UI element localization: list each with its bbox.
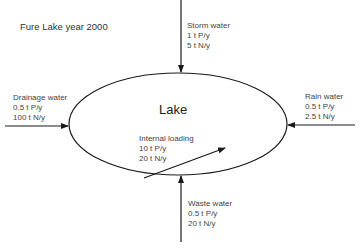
storm-water-label: Storm water 1 t P/y 5 t N/y [187,21,230,51]
internal-loading-label: Internal loading 10 t P/y 20 t N/y [139,134,194,164]
rain-water-label: Rain water 0.5 t P/y 2.5 t N/y [305,92,343,122]
flow-phosphorus: 10 t P/y [139,144,194,154]
lake-label: Lake [159,102,187,117]
flow-name: Rain water [305,92,343,102]
flow-nitrogen: 100 t N/y [13,113,67,123]
flow-phosphorus: 0.5 t P/y [305,102,343,112]
flow-name: Waste water [188,199,232,209]
flow-nitrogen: 5 t N/y [187,41,230,51]
flow-nitrogen: 20 t N/y [139,154,194,164]
drainage-water-label: Drainage water 0.5 t P/y 100 t N/y [13,93,67,123]
flow-name: Drainage water [13,93,67,103]
flow-name: Internal loading [139,134,194,144]
flow-name: Storm water [187,21,230,31]
diagram-title: Fure Lake year 2000 [20,21,108,32]
flow-phosphorus: 0.5 t P/y [188,209,232,219]
flow-nitrogen: 2.5 t N/y [305,112,343,122]
flow-phosphorus: 0.5 t P/y [13,103,67,113]
waste-water-label: Waste water 0.5 t P/y 20 t N/y [188,199,232,229]
flow-phosphorus: 1 t P/y [187,31,230,41]
lake-diagram [0,0,360,249]
flow-nitrogen: 20 t N/y [188,219,232,229]
